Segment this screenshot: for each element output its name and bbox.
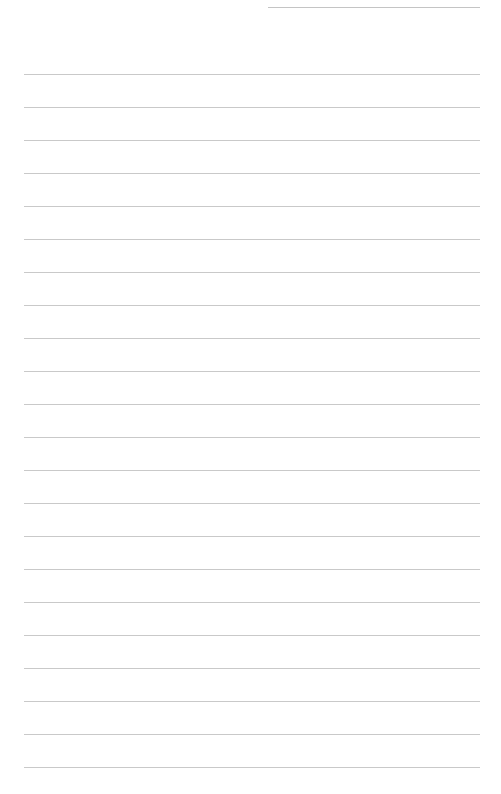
ruled-line — [24, 767, 480, 768]
ruled-line — [24, 140, 480, 141]
ruled-line — [24, 569, 480, 570]
ruled-line — [24, 272, 480, 273]
ruled-line — [24, 668, 480, 669]
ruled-line — [24, 338, 480, 339]
ruled-line — [24, 305, 480, 306]
ruled-line — [24, 470, 480, 471]
ruled-line — [24, 404, 480, 405]
ruled-line — [24, 635, 480, 636]
ruled-line — [24, 602, 480, 603]
ruled-line — [24, 107, 480, 108]
lined-paper-page — [0, 0, 501, 794]
ruled-line — [24, 701, 480, 702]
ruled-line — [24, 734, 480, 735]
ruled-line — [24, 74, 480, 75]
ruled-line — [24, 503, 480, 504]
ruled-line — [24, 239, 480, 240]
header-line — [268, 7, 480, 8]
ruled-line — [24, 206, 480, 207]
ruled-line — [24, 173, 480, 174]
ruled-line — [24, 437, 480, 438]
ruled-line — [24, 536, 480, 537]
ruled-line — [24, 371, 480, 372]
